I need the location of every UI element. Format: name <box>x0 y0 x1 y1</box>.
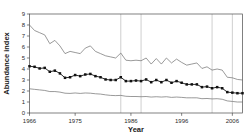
data-point-marker <box>185 83 188 86</box>
data-point-marker <box>135 79 138 82</box>
data-point-marker <box>160 81 163 84</box>
data-point-marker <box>84 73 87 76</box>
data-point-marker <box>114 79 117 82</box>
data-point-marker <box>38 67 41 70</box>
data-point-marker <box>140 80 143 83</box>
data-point-marker <box>99 76 102 79</box>
x-axis-tick-label: 2006 <box>226 118 240 124</box>
abundance-index-line-chart: 0123456789 19661975198619962006 Abundanc… <box>0 0 250 136</box>
data-point-marker <box>64 77 67 80</box>
data-point-marker <box>54 69 57 72</box>
data-point-marker <box>89 73 92 76</box>
data-point-marker <box>130 80 133 83</box>
x-axis-tick-label: 1975 <box>68 118 82 124</box>
data-point-marker <box>69 76 72 79</box>
data-point-marker <box>241 92 244 95</box>
data-point-marker <box>236 92 239 95</box>
y-axis-title: Abundance index <box>2 31 11 94</box>
data-point-marker <box>191 83 194 86</box>
data-point-marker <box>150 81 153 84</box>
data-point-marker <box>120 76 123 79</box>
data-point-marker <box>145 78 148 81</box>
data-point-marker <box>109 79 112 82</box>
data-point-marker <box>196 83 199 86</box>
data-point-marker <box>175 80 178 83</box>
data-point-marker <box>33 66 36 69</box>
data-point-marker <box>201 86 204 89</box>
data-point-marker <box>43 67 46 70</box>
data-point-marker <box>155 79 158 82</box>
data-point-marker <box>231 91 234 94</box>
x-axis-tick-label: 1996 <box>175 118 189 124</box>
data-point-marker <box>125 80 128 83</box>
data-point-marker <box>211 87 214 90</box>
data-point-marker <box>28 65 31 68</box>
data-point-marker <box>79 75 82 78</box>
data-point-marker <box>74 74 77 77</box>
data-point-marker <box>221 87 224 90</box>
x-axis-title: Year <box>128 125 144 134</box>
chart-figure: 0123456789 19661975198619962006 Abundanc… <box>0 0 250 136</box>
data-point-marker <box>206 85 209 88</box>
data-point-marker <box>180 82 183 85</box>
data-point-marker <box>165 79 168 82</box>
data-point-marker <box>104 78 107 81</box>
x-axis-tick-label: 1966 <box>23 118 37 124</box>
data-point-marker <box>216 86 219 89</box>
x-axis-tick-label: 1986 <box>124 118 138 124</box>
data-point-marker <box>170 82 173 85</box>
data-point-marker <box>94 75 97 78</box>
data-point-marker <box>59 72 62 75</box>
data-point-marker <box>226 91 229 94</box>
data-point-marker <box>49 71 52 74</box>
